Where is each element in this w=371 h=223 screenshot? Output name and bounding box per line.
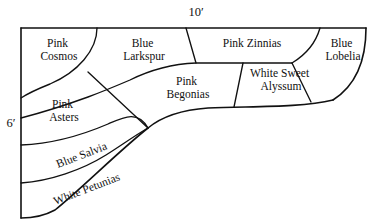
garden-plot-diagram: Pink Cosmos Blue Larkspur Pink Zinnias B… [0,0,371,223]
dimension-label-height: 6′ [7,116,16,130]
bed-label-blue-lobelia: Blue Lobelia [325,37,360,62]
divider-zinnias-lobelia [292,28,320,63]
bed-label-blue-larkspur: Blue Larkspur [123,37,165,63]
garden-plot-svg: Pink Cosmos Blue Larkspur Pink Zinnias B… [0,0,371,223]
divider-larkspur-zinnias [186,28,196,63]
bed-label-blue-salvia: Blue Salvia [54,140,108,170]
bed-label-white-sweet-alyssum: White Sweet Alyssum [250,67,312,93]
bed-label-pink-asters: Pink Asters [49,98,79,123]
divider-begonias-alyssum [234,63,243,107]
bed-label-white-petunias: White Petunias [52,170,122,206]
bed-label-pink-begonias: Pink Begonias [167,75,210,101]
bed-label-pink-cosmos: Pink Cosmos [40,37,78,62]
dimension-label-width: 10′ [188,5,204,19]
bed-label-pink-zinnias: Pink Zinnias [223,37,282,49]
